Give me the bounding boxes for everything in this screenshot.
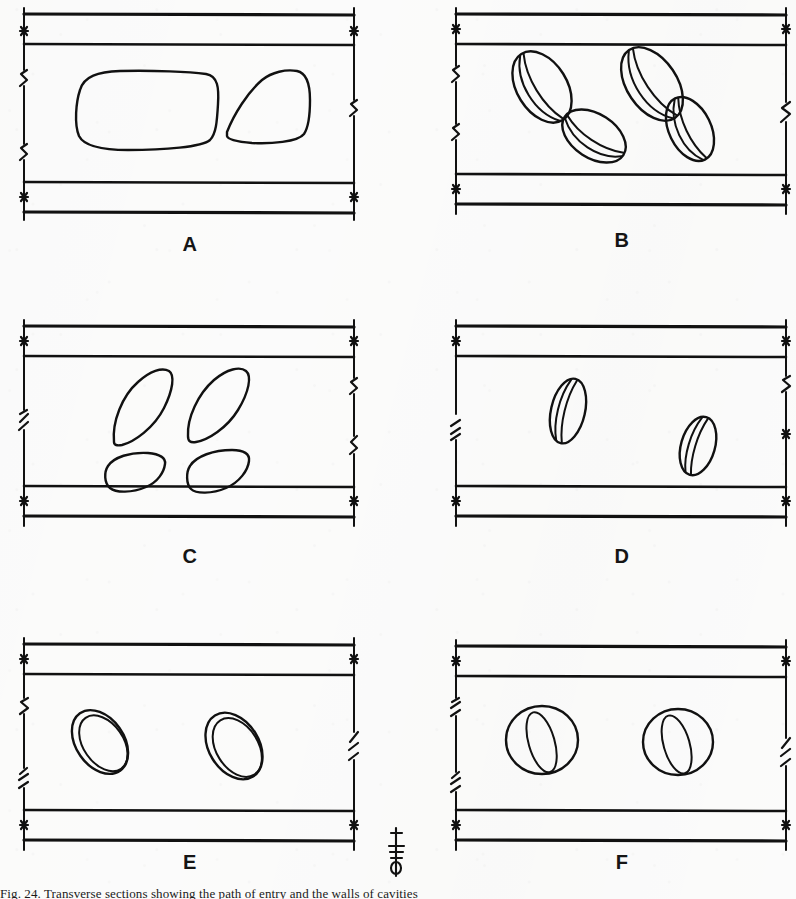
wall-bottom-outer — [24, 840, 354, 841]
break-mark-right-lower — [350, 436, 357, 454]
inclusion-b-1 — [500, 41, 584, 134]
panel-label-b: B — [446, 230, 796, 250]
break-mark-left-lower — [19, 768, 28, 788]
panel-a-drawing — [14, 4, 366, 224]
figure-sheet: A — [0, 0, 796, 899]
inclusion-f-1 — [506, 706, 578, 776]
wall-bottom-outer — [456, 840, 786, 841]
break-mark-right-upper — [350, 378, 357, 394]
panel-e — [14, 632, 366, 854]
inclusion-b-1-outline — [500, 41, 584, 134]
inclusion-e-1-outer — [60, 700, 139, 785]
inclusion-f-1-inner — [521, 709, 563, 776]
wall-top-inner — [24, 356, 354, 357]
break-mark-left — [19, 410, 28, 430]
break-mark-left-upper — [20, 698, 28, 714]
wall-bottom-inner — [456, 486, 786, 487]
break-mark-right — [781, 738, 790, 766]
inclusion-b-2-arc-right — [625, 49, 677, 120]
wall-bottom-inner — [456, 810, 786, 811]
figure-caption: Fig. 24. Transverse sections showing the… — [0, 886, 796, 899]
inclusion-c-1 — [114, 369, 173, 445]
wall-top-outer — [24, 644, 354, 645]
panel-e-drawing — [14, 632, 366, 854]
inclusion-b-4-outline — [656, 89, 724, 169]
inclusion-c-2 — [188, 369, 249, 443]
panel-c-drawing — [14, 314, 366, 534]
break-mark-left-upper — [20, 70, 27, 86]
wall-top-inner — [24, 674, 354, 675]
wall-bottom-outer — [456, 204, 786, 205]
panel-b-drawing — [446, 4, 796, 224]
panel-a — [14, 4, 366, 224]
inclusion-b-3-outline — [553, 98, 636, 173]
break-mark-left-lower — [451, 772, 460, 792]
wall-bottom-inner — [456, 174, 786, 175]
break-mark-left — [451, 420, 460, 440]
panel-f — [446, 632, 796, 854]
inclusion-f-2 — [643, 709, 713, 777]
break-mark-left-lower — [20, 144, 27, 160]
scale-dimension-marker — [378, 826, 414, 878]
panel-d — [446, 314, 796, 534]
wall-top-inner — [24, 44, 354, 45]
panel-label-e: E — [14, 852, 366, 872]
wall-top-outer — [456, 14, 786, 15]
panel-label-d: D — [446, 546, 796, 566]
inclusion-e-2 — [194, 702, 275, 790]
inclusion-d-1 — [544, 375, 592, 447]
break-mark-right — [781, 102, 790, 122]
wall-bottom-inner — [24, 182, 354, 183]
inclusion-a-1 — [76, 71, 218, 150]
break-mark-right — [350, 100, 357, 116]
inclusion-b-2-outline — [608, 36, 695, 132]
panel-d-drawing — [446, 314, 796, 534]
inclusion-b-4 — [656, 89, 724, 169]
panel-label-c: C — [14, 546, 366, 566]
panel-b — [446, 4, 796, 224]
panel-c — [14, 314, 366, 534]
wall-bottom-inner — [24, 810, 354, 811]
wall-bottom-outer — [24, 516, 354, 517]
wall-top-outer — [24, 326, 354, 327]
inclusion-a-2 — [227, 70, 310, 143]
break-mark-left-upper — [451, 698, 460, 716]
inclusion-f-2-inner — [656, 712, 698, 777]
wall-top-outer — [24, 14, 354, 15]
break-mark-right — [349, 732, 358, 760]
panel-f-drawing — [446, 632, 796, 854]
break-mark-left-lower — [452, 124, 459, 140]
inclusion-b-2 — [608, 36, 695, 132]
wall-top-inner — [456, 356, 786, 357]
inclusion-e-1 — [60, 700, 139, 785]
wall-bottom-outer — [24, 212, 354, 213]
wall-bottom-outer — [456, 516, 786, 517]
wall-top-inner — [456, 676, 786, 677]
break-mark-right — [782, 376, 790, 392]
panel-label-a: A — [14, 234, 366, 254]
wall-top-outer — [456, 646, 786, 647]
panel-label-f: F — [446, 852, 796, 872]
inclusion-d-2 — [673, 412, 722, 479]
inclusion-e-2-outer — [194, 702, 275, 790]
wall-top-outer — [456, 326, 786, 327]
inclusion-b-3 — [553, 98, 636, 173]
wall-top-inner — [456, 44, 786, 45]
break-mark-left-upper — [452, 66, 459, 82]
